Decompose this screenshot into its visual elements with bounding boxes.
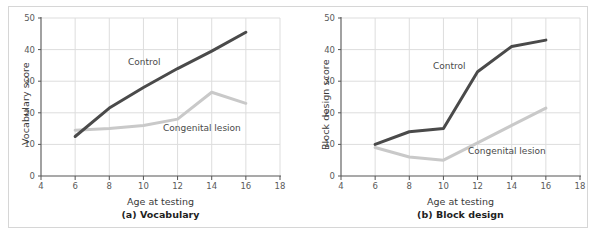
x-tick-label: 16 bbox=[240, 181, 251, 191]
y-tick-label: 50 bbox=[324, 13, 335, 23]
x-tick-label: 12 bbox=[172, 181, 183, 191]
x-tick-label: 6 bbox=[72, 181, 77, 191]
x-axis-title-block-design: Age at testing bbox=[341, 196, 580, 207]
y-tick-label: 40 bbox=[324, 45, 335, 55]
series-label-control-vocabulary: Control bbox=[128, 57, 161, 67]
x-tick-label: 4 bbox=[338, 181, 343, 191]
chart-panel-block-design: 010203040504681012141618 Block design sc… bbox=[300, 0, 600, 241]
x-tick-label: 14 bbox=[506, 181, 517, 191]
y-tick-label: 0 bbox=[30, 171, 35, 181]
x-tick-label: 12 bbox=[472, 181, 483, 191]
panel-caption-vocabulary: (a) Vocabulary bbox=[41, 209, 280, 220]
panel-caption-block-design: (b) Block design bbox=[341, 209, 580, 220]
y-axis-title-vocabulary: Vocabulary score bbox=[20, 62, 31, 145]
series-label-control-block-design: Control bbox=[433, 61, 466, 71]
series-line-control bbox=[375, 40, 546, 144]
x-tick-label: 10 bbox=[438, 181, 449, 191]
series-label-congenital-lesion-vocabulary: Congenital lesion bbox=[163, 123, 241, 133]
chart-panel-vocabulary: 010203040504681012141618 Vocabulary scor… bbox=[0, 0, 300, 241]
x-tick-label: 10 bbox=[138, 181, 149, 191]
x-tick-label: 18 bbox=[275, 181, 286, 191]
x-tick-label: 18 bbox=[575, 181, 586, 191]
y-tick-label: 0 bbox=[330, 171, 335, 181]
x-tick-label: 14 bbox=[206, 181, 217, 191]
y-tick-label: 40 bbox=[24, 45, 35, 55]
x-tick-label: 8 bbox=[407, 181, 412, 191]
figure-container: 010203040504681012141618 Vocabulary scor… bbox=[0, 0, 600, 241]
x-axis-title-vocabulary: Age at testing bbox=[41, 196, 280, 207]
x-tick-label: 16 bbox=[540, 181, 551, 191]
x-tick-label: 6 bbox=[372, 181, 377, 191]
x-tick-label: 4 bbox=[38, 181, 43, 191]
y-axis-title-block-design: Block design score bbox=[320, 59, 331, 150]
series-label-congenital-lesion-block-design: Congenital lesion bbox=[468, 146, 546, 156]
x-tick-label: 8 bbox=[107, 181, 112, 191]
y-tick-label: 50 bbox=[24, 13, 35, 23]
